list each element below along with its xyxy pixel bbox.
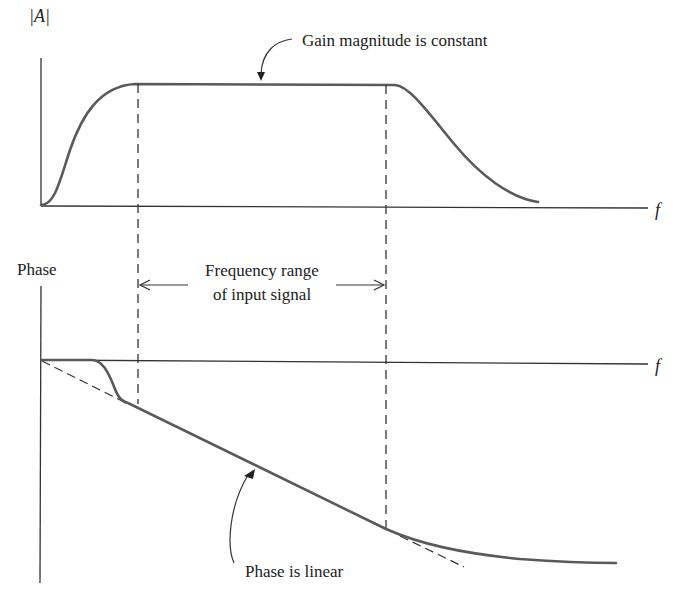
arrowhead-icon [257,72,265,81]
gain-annotation-arrow [261,39,292,74]
phase-annotation: Phase is linear [245,562,344,581]
phase-curve [42,360,616,563]
phase-y-axis [40,286,41,583]
magnitude-axis-label: |A| [29,6,50,26]
frequency-response-diagram: |A| f Gain magnitude is constant Frequen… [0,0,699,599]
magnitude-x-axis [41,206,648,208]
magnitude-curve [41,84,538,205]
magnitude-plot: |A| f Gain magnitude is constant [29,6,663,220]
phase-annotation-arrow [230,475,248,563]
arrowhead-icon [244,469,255,479]
phase-axis-label: Phase [17,260,57,279]
phase-plot: Phase f Phase is linear [17,260,663,583]
phase-x-axis-label: f [655,356,663,376]
phase-x-axis [41,360,648,364]
magnitude-x-axis-label: f [655,200,663,220]
linear-phase-extension [400,536,464,567]
frequency-range-annotation: Frequency range of input signal [140,261,384,304]
range-label-line1: Frequency range [205,261,319,280]
gain-annotation: Gain magnitude is constant [302,31,488,50]
range-label-line2: of input signal [213,285,311,304]
